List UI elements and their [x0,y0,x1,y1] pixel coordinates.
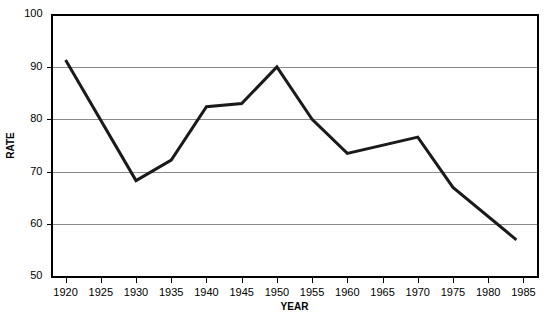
x-tick-label: 1965 [370,286,394,298]
x-tick-label: 1930 [124,286,148,298]
y-tick-label: 70 [30,165,42,177]
x-tick-label: 1975 [441,286,465,298]
y-tick-label: 60 [30,217,42,229]
x-tick-label: 1960 [335,286,359,298]
x-tick-label: 1945 [229,286,253,298]
y-tick-label: 100 [24,7,42,19]
x-axis-title: YEAR [281,301,310,312]
chart-canvas: 1009080706050 19201925193019351940194519… [0,0,548,322]
x-tick-label: 1935 [159,286,183,298]
x-tick-label: 1985 [511,286,535,298]
line-chart: 1009080706050 19201925193019351940194519… [0,0,548,322]
y-axis-tick-labels: 1009080706050 [24,7,42,281]
data-series-line [66,60,517,240]
x-tick-label: 1940 [194,286,218,298]
y-axis-title: RATE [5,132,16,159]
x-tick-label: 1950 [265,286,289,298]
x-tick-label: 1980 [476,286,500,298]
y-tick-label: 90 [30,60,42,72]
x-tick-label: 1925 [89,286,113,298]
y-tick-label: 50 [30,269,42,281]
y-tick-label: 80 [30,112,42,124]
plot-frame [52,15,538,277]
x-tick-label: 1970 [406,286,430,298]
x-tick-label: 1955 [300,286,324,298]
x-tick-label: 1920 [53,286,77,298]
x-axis-tick-labels: 1920192519301935194019451950195519601965… [53,286,535,298]
axis-tickmarks [47,68,524,283]
